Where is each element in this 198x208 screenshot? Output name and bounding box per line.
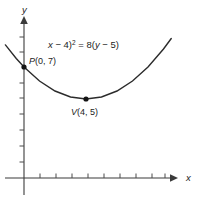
y-axis-ticks — [20, 37, 25, 162]
x-axis-arrow-icon — [170, 174, 178, 182]
point-label-v-coords: (4, 5) — [77, 107, 98, 117]
graph-canvas: y x P(0, 7) V(4, 5) x − 4)2 = 8(y − 5) — [0, 0, 198, 208]
parabola-figure: y x P(0, 7) V(4, 5) x − 4)2 = 8(y − 5) — [0, 0, 198, 208]
point-marker-p — [21, 64, 26, 69]
y-axis-arrow-icon — [20, 16, 28, 24]
point-label-v: V(4, 5) — [71, 107, 98, 117]
point-label-p: P(0, 7) — [29, 56, 56, 66]
x-axis-label: x — [185, 172, 192, 183]
point-marker-v — [83, 96, 88, 101]
y-axis-label: y — [21, 4, 28, 15]
x-axis-ticks — [40, 174, 165, 179]
equation-minus-k: − 5) — [100, 39, 119, 50]
point-label-p-coords: (0, 7) — [35, 56, 56, 66]
equation-annotation: x − 4)2 = 8(y − 5) — [47, 39, 119, 51]
equation-minus-h: − 4) — [53, 39, 72, 50]
equation-equals: = 8( — [76, 39, 96, 50]
